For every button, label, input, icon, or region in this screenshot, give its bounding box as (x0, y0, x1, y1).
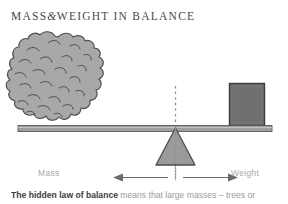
caption-body: means that large masses – trees or (118, 190, 255, 200)
balance-diagram: Mass Weight (0, 26, 288, 186)
caption-lead: The hidden law of balance (11, 190, 118, 200)
caption: The hidden law of balance means that lar… (11, 190, 283, 201)
title-part-two: WEIGHT IN BALANCE (57, 10, 196, 22)
title-part-one: MASS (11, 10, 47, 22)
weight-block (230, 84, 265, 126)
page-title: MASS&WEIGHT IN BALANCE (11, 9, 261, 23)
illustration-page: MASS&WEIGHT IN BALANCE (0, 0, 288, 204)
balance-beam (18, 126, 272, 132)
weight-label: Weight (231, 168, 259, 178)
right-distance-arrow (183, 174, 238, 182)
mass-label: Mass (38, 168, 60, 178)
balance-diagram-artwork (0, 26, 288, 186)
tree-mass-blob (6, 32, 103, 121)
left-distance-arrow (113, 174, 168, 182)
title-ampersand: & (47, 10, 56, 22)
